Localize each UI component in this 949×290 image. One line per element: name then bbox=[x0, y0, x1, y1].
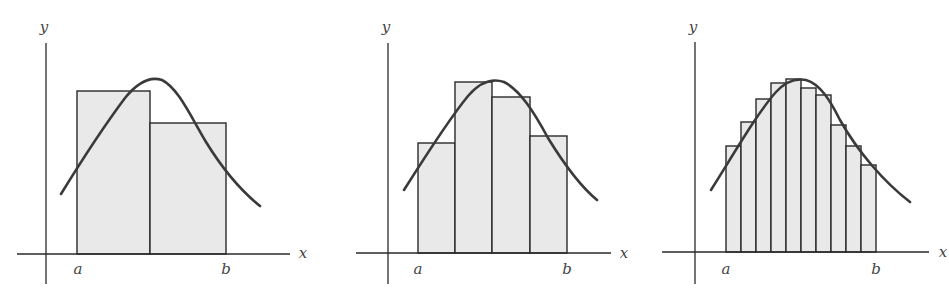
riemann-rectangle bbox=[492, 97, 530, 253]
lower-bound-label-a: a bbox=[414, 260, 423, 278]
riemann-rectangle bbox=[771, 83, 786, 252]
lower-bound-label-a: a bbox=[722, 260, 731, 278]
y-axis-label: y bbox=[381, 18, 391, 36]
y-axis-label: y bbox=[688, 18, 698, 36]
x-axis-label: x bbox=[620, 244, 629, 262]
y-axis-label: y bbox=[39, 18, 49, 36]
x-axis-label: x bbox=[939, 243, 948, 261]
panel-two-rectangles: yxab bbox=[17, 18, 308, 284]
upper-bound-label-b: b bbox=[221, 260, 231, 278]
riemann-rectangle bbox=[530, 136, 567, 253]
riemann-rectangle bbox=[831, 125, 846, 252]
x-axis-label: x bbox=[299, 244, 308, 262]
riemann-sum-figure: yxab yxab yxab bbox=[0, 0, 949, 290]
riemann-rectangle bbox=[756, 99, 771, 252]
riemann-rectangle bbox=[861, 165, 876, 252]
panel-ten-rectangles: yxab bbox=[662, 18, 948, 284]
riemann-rectangle bbox=[786, 79, 801, 252]
riemann-rectangle bbox=[150, 123, 226, 254]
upper-bound-label-b: b bbox=[562, 260, 572, 278]
upper-bound-label-b: b bbox=[871, 260, 881, 278]
riemann-rectangle bbox=[846, 146, 861, 252]
riemann-rectangle bbox=[816, 95, 831, 252]
riemann-rectangle bbox=[741, 122, 756, 252]
lower-bound-label-a: a bbox=[74, 260, 83, 278]
riemann-rectangle bbox=[801, 88, 816, 252]
panel-four-rectangles: yxab bbox=[356, 18, 629, 284]
